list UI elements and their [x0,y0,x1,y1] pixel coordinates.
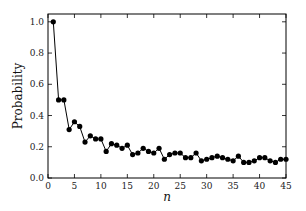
data-point [231,158,236,163]
data-point [273,160,278,165]
data-point [225,157,230,162]
data-point [141,146,146,151]
x-tick-label: 0 [45,181,51,191]
x-tick-label: 35 [227,181,239,191]
data-point [209,155,214,160]
data-point [156,146,161,151]
x-tick-label: 5 [72,181,78,191]
data-point [183,155,188,160]
data-point [146,149,151,154]
data-point [151,150,156,155]
axis-ticks: 0510152025303540450.00.20.40.60.81.0 [30,14,292,191]
y-tick-label: 0.4 [30,111,45,121]
y-tick-label: 1.0 [30,17,45,27]
data-point [130,152,135,157]
y-tick-label: 0.2 [30,142,44,152]
data-point [257,155,262,160]
data-point [236,154,241,159]
data-point [268,158,273,163]
data-point [178,150,183,155]
x-axis-label: n [163,190,171,204]
y-tick-label: 0.8 [30,48,45,58]
data-point [220,155,225,160]
x-tick-label: 40 [254,181,266,191]
data-point [262,155,267,160]
y-axis-label: Probability [11,62,25,129]
data-point [204,157,209,162]
data-point [88,133,93,138]
data-point [246,160,251,165]
x-tick-label: 20 [148,181,160,191]
data-point [98,136,103,141]
data-point [162,157,167,162]
data-point [61,97,66,102]
data-point [252,158,257,163]
data-point [193,150,198,155]
data-point [241,160,246,165]
data-series [51,19,289,165]
data-point [93,136,98,141]
data-point [104,149,109,154]
data-point [82,139,87,144]
data-point [278,157,283,162]
data-point [77,124,82,129]
data-point [125,143,130,148]
data-point [172,150,177,155]
x-tick-label: 30 [201,181,213,191]
series-line [53,22,286,163]
data-point [114,143,119,148]
x-tick-label: 45 [280,181,292,191]
data-point [135,150,140,155]
data-point [188,155,193,160]
data-point [67,127,72,132]
data-point [109,141,114,146]
data-point [119,146,124,151]
data-point [283,157,288,162]
data-point [51,19,56,24]
data-point [215,154,220,159]
y-tick-label: 0.6 [30,79,45,89]
y-tick-label: 0.0 [30,173,45,183]
plot-frame [48,14,286,178]
x-tick-label: 15 [122,181,134,191]
plot-border [48,14,286,178]
data-point [72,119,77,124]
probability-chart: 0510152025303540450.00.20.40.60.81.0 n P… [0,0,306,211]
data-point [199,158,204,163]
x-tick-label: 10 [95,181,107,191]
data-point [56,97,61,102]
data-point [167,152,172,157]
x-tick-label: 25 [174,181,186,191]
